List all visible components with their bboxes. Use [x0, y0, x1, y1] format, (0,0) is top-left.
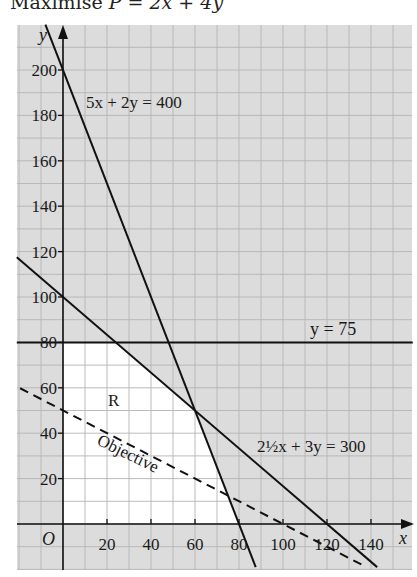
region-label-r: R: [108, 391, 120, 410]
y-tick-label: 100: [32, 288, 58, 307]
label-2-5x-3y-300: 2½x + 3y = 300: [257, 437, 365, 456]
label-5x-2y-400: 5x + 2y = 400: [86, 93, 182, 112]
y-tick-label: 180: [32, 106, 58, 125]
y-tick-label: 120: [32, 243, 58, 262]
linear-programming-chart: 2040608010012014020406080100120140160180…: [0, 0, 417, 577]
y-tick-label: 140: [32, 197, 58, 216]
x-tick-label: 100: [270, 535, 296, 554]
x-tick-label: 20: [99, 535, 116, 554]
y-tick-label: 20: [40, 470, 57, 489]
y-tick-label: 160: [32, 152, 58, 171]
y-tick-label: 40: [40, 424, 57, 443]
y-tick-label: 80: [40, 333, 57, 352]
y-tick-label: 200: [32, 61, 58, 80]
x-tick-label: 60: [187, 535, 204, 554]
origin-label: O: [42, 529, 55, 549]
x-tick-label: 40: [143, 535, 160, 554]
label-y-75: y = 75: [310, 319, 356, 339]
y-tick-label: 60: [40, 379, 57, 398]
x-axis-label: x: [398, 528, 407, 548]
x-tick-label: 140: [358, 535, 384, 554]
x-tick-label: 80: [231, 535, 248, 554]
y-axis-label: y: [37, 25, 47, 45]
x-tick-label: 120: [314, 535, 340, 554]
